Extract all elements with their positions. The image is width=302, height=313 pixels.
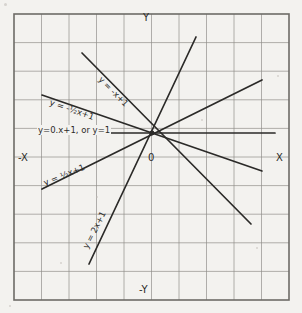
scan-speck — [256, 247, 258, 249]
scan-speck — [4, 3, 7, 6]
axis-label-y-negative: -Y — [139, 284, 148, 295]
graph-figure: Y-YX-X0y = -x+1y = -½x+1y=0.x+1, or y=1y… — [0, 0, 302, 313]
scan-speck — [60, 262, 62, 264]
line-label-3: y=0.x+1, or y=1 — [37, 125, 111, 135]
axis-label-y-positive: Y — [143, 12, 149, 23]
axis-label-origin: 0 — [148, 152, 154, 163]
intercept-point — [150, 131, 155, 136]
scan-speck — [277, 75, 279, 77]
axis-label-x-negative: -X — [18, 152, 28, 163]
scan-speck — [9, 305, 11, 307]
axis-label-x-positive: X — [276, 152, 283, 163]
scan-speck — [201, 119, 203, 121]
scan-speck — [96, 196, 98, 198]
